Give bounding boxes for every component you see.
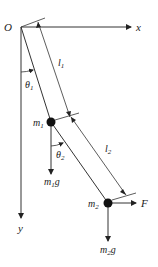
- mass2-label: m2: [88, 198, 99, 211]
- theta2-arc-icon: [51, 143, 63, 146]
- rod-1: [21, 27, 51, 122]
- length2-bottom-arrow-icon: [120, 189, 126, 195]
- theta1-label: θ1: [25, 79, 33, 92]
- length2-dimension-line: [71, 117, 126, 195]
- length1-dimension-line: [38, 22, 70, 117]
- length1-top-arrow-icon: [36, 22, 41, 28]
- mass1-bob: [47, 118, 56, 127]
- y-axis-label: y: [17, 222, 23, 234]
- length1-label: l1: [58, 57, 64, 70]
- force-label: F: [140, 197, 148, 209]
- x-axis-label: x: [135, 21, 141, 33]
- weight1-label: m1g: [44, 176, 60, 189]
- origin-label: O: [4, 21, 12, 33]
- double-pendulum-diagram: O x y l1 l2 θ1 θ2 m1 m2 m1g m2g F: [0, 0, 158, 267]
- theta1-arc-icon: [21, 70, 33, 72]
- mass2-bob: [104, 199, 113, 208]
- theta2-label: θ2: [56, 149, 65, 162]
- weight2-label: m2g: [100, 244, 116, 257]
- mass2-reference-tick: [112, 193, 136, 200]
- mass1-reference-tick: [55, 113, 79, 120]
- length2-label: l2: [105, 143, 112, 156]
- mass1-label: m1: [33, 117, 44, 130]
- top-reference-tick: [21, 18, 45, 27]
- length2-top-arrow-icon: [71, 117, 76, 123]
- rod-2: [51, 122, 108, 203]
